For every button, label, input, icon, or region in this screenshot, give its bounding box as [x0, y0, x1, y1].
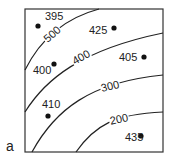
sample-point-dot — [51, 61, 56, 66]
sample-point-value: 400 — [33, 64, 51, 76]
panel-label: a — [6, 138, 14, 154]
contour-label: 300 — [100, 78, 121, 94]
sample-point-dot — [45, 113, 50, 118]
sample-point-dot — [35, 23, 40, 28]
sample-point-value: 405 — [119, 51, 137, 63]
sample-point-dot — [141, 54, 146, 59]
sample-point-dot — [111, 25, 116, 30]
sample-point-value: 425 — [89, 24, 107, 36]
sample-point-value: 410 — [42, 98, 60, 110]
sample-point-value: 435 — [125, 131, 143, 143]
contour-diagram: 500400300200 395425400405410435 a — [0, 0, 171, 161]
contour-label: 400 — [70, 47, 92, 67]
sample-point-value: 395 — [45, 10, 63, 22]
contour-label: 200 — [109, 111, 129, 127]
